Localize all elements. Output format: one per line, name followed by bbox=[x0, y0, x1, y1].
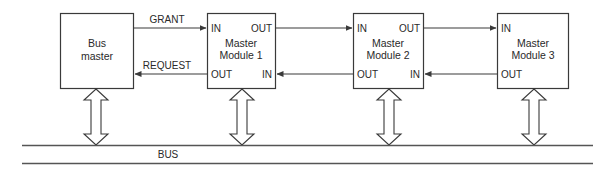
system-bus: BUS bbox=[22, 146, 593, 164]
bus-master-label-line2: master bbox=[81, 50, 114, 62]
module-2-bus-arrow-icon bbox=[377, 89, 401, 145]
module-2-label-line2: Module 2 bbox=[366, 49, 409, 61]
module-3-bus-arrow-icon bbox=[522, 89, 546, 145]
module-1-in-bottom: IN bbox=[262, 69, 272, 80]
module-3-label-line2: Module 3 bbox=[511, 49, 554, 61]
module-2-label-line1: Master bbox=[372, 37, 405, 49]
bus-master-block: Bus master bbox=[61, 14, 134, 89]
module-2-out-bottom: OUT bbox=[357, 69, 378, 80]
request-signal: REQUEST bbox=[135, 60, 207, 74]
grant-signal: GRANT bbox=[134, 14, 206, 28]
master-module-3: IN Master Module 3 OUT bbox=[498, 14, 569, 89]
module-2-out-top: OUT bbox=[399, 23, 420, 34]
module-3-in-top: IN bbox=[501, 23, 511, 34]
module-1-in-top: IN bbox=[211, 23, 221, 34]
bus-arbitration-diagram: Bus master GRANT REQUEST IN OUT Master M… bbox=[0, 0, 613, 170]
module-1-bus-arrow-icon bbox=[230, 89, 254, 145]
module-1-out-bottom: OUT bbox=[211, 69, 232, 80]
bus-master-bus-arrow-icon bbox=[84, 89, 108, 145]
module-1-label-line1: Master bbox=[225, 37, 258, 49]
bus-label: BUS bbox=[158, 149, 179, 160]
request-label: REQUEST bbox=[143, 60, 191, 71]
grant-label: GRANT bbox=[150, 14, 185, 25]
master-module-2: IN OUT Master Module 2 OUT IN bbox=[354, 14, 424, 89]
module-1-label-line2: Module 1 bbox=[219, 49, 262, 61]
module-2-in-bottom: IN bbox=[410, 69, 420, 80]
module-3-label-line1: Master bbox=[517, 37, 550, 49]
module-3-out-bottom: OUT bbox=[501, 69, 522, 80]
bus-master-label-line1: Bus bbox=[88, 37, 106, 49]
master-module-1: IN OUT Master Module 1 OUT IN bbox=[208, 14, 276, 89]
module-1-out-top: OUT bbox=[251, 23, 272, 34]
module-2-in-top: IN bbox=[357, 23, 367, 34]
